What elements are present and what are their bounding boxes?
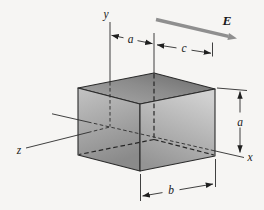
field-label: E [221,13,231,28]
dim-a-top-label: a [128,33,134,45]
figure-canvas: y z x E a c a b [0,0,264,210]
box-front-right-face [140,89,215,171]
dim-a-right-label: a [237,116,243,128]
dim-c-label: c [181,42,186,54]
y-axis-label: y [102,8,109,21]
dim-b-label: b [168,184,174,196]
physics-box-field-diagram: y z x E a c a b [0,0,264,210]
x-axis-label: x [246,151,253,163]
z-axis-label: z [16,144,22,156]
